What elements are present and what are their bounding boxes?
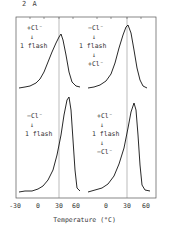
svg-text:−Cl⁻: −Cl⁻: [97, 148, 113, 156]
x-ticks-right: 0 30 60: [104, 202, 150, 210]
svg-text:0: 0: [104, 202, 108, 210]
svg-text:−Cl⁻: −Cl⁻: [88, 24, 104, 32]
svg-text:60: 60: [72, 202, 80, 210]
curve-top-right: [88, 25, 147, 88]
svg-text:-30: -30: [9, 202, 21, 210]
svg-text:+Cl⁻: +Cl⁻: [88, 60, 104, 68]
svg-text:30: 30: [55, 202, 63, 210]
svg-text:60: 60: [142, 202, 150, 210]
svg-text:−Cl⁻: −Cl⁻: [27, 112, 43, 120]
svg-text:↓: ↓: [30, 121, 34, 129]
svg-text:0: 0: [36, 202, 40, 210]
annotation-top-left: +Cl⁻ ↓ 1 flash: [20, 24, 47, 50]
svg-text:1 flash: 1 flash: [20, 42, 47, 50]
svg-text:1 flash: 1 flash: [25, 130, 52, 138]
svg-text:↓: ↓: [30, 33, 34, 41]
svg-text:1 flash: 1 flash: [92, 130, 119, 138]
svg-text:30: 30: [123, 202, 131, 210]
svg-text:↓: ↓: [92, 33, 96, 41]
svg-text:+Cl⁻: +Cl⁻: [97, 112, 113, 120]
svg-text:1 flash: 1 flash: [79, 42, 106, 50]
svg-text:↓: ↓: [100, 121, 104, 129]
annotation-bottom-right: +Cl⁻ ↓ 1 flash ↓ −Cl⁻: [92, 112, 119, 156]
annotation-top-right: −Cl⁻ ↓ 1 flash ↓ +Cl⁻: [79, 24, 106, 68]
svg-text:↓: ↓: [92, 51, 96, 59]
annotation-bottom-left: −Cl⁻ ↓ 1 flash: [25, 112, 52, 138]
x-axis-label: Temperature (°C): [0, 216, 169, 224]
svg-text:↓: ↓: [100, 139, 104, 147]
chart-svg: +Cl⁻ ↓ 1 flash −Cl⁻ ↓ 1 flash ↓ +Cl⁻ −Cl…: [0, 0, 169, 229]
svg-text:+Cl⁻: +Cl⁻: [27, 24, 43, 32]
x-ticks-left: -30 0 30 60: [9, 202, 80, 210]
